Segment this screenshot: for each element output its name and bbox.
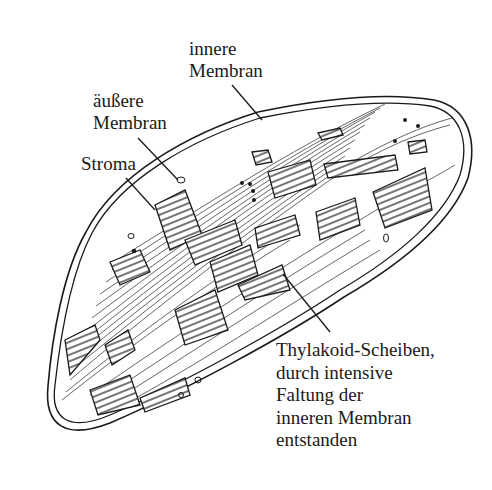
leader-inner-membrane bbox=[232, 85, 262, 120]
chloroplast-diagram: innere Membran äußere Membran Stroma Thy… bbox=[0, 0, 492, 490]
label-line: Thylakoid-Scheiben, bbox=[276, 339, 435, 362]
label-line: äußere bbox=[93, 90, 167, 112]
label-thylakoid: Thylakoid-Scheiben, durch intensive Falt… bbox=[276, 339, 435, 452]
label-line: inneren Membran bbox=[276, 407, 435, 430]
label-line: Membran bbox=[93, 112, 167, 134]
label-inner-membrane: innere Membran bbox=[189, 38, 263, 82]
label-outer-membrane: äußere Membran bbox=[93, 90, 167, 134]
label-stroma: Stroma bbox=[81, 153, 136, 175]
label-line: Membran bbox=[189, 60, 263, 82]
label-line: Faltung der bbox=[276, 384, 435, 407]
label-line: Stroma bbox=[81, 153, 136, 175]
label-line: innere bbox=[189, 38, 263, 60]
label-line: entstanden bbox=[276, 429, 435, 452]
label-line: durch intensive bbox=[276, 362, 435, 385]
